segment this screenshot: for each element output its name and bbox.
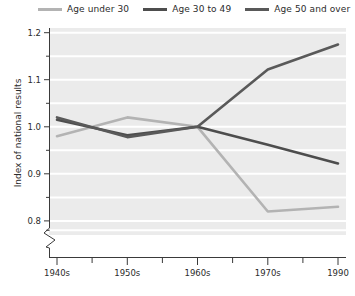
x-axis-tick-label: 1970s <box>248 268 288 278</box>
y-axis-tick-label: 1.2 <box>19 28 41 38</box>
x-axis-tick-label: 1960s <box>178 268 218 278</box>
x-axis-ticks <box>57 258 338 265</box>
y-axis-ticks <box>44 33 50 231</box>
y-axis-tick-label: 0.8 <box>19 216 41 226</box>
y-axis-tick-label: 1.0 <box>19 122 41 132</box>
x-axis-tick-label: 1990 <box>318 268 355 278</box>
y-axis-tick-label: 0.9 <box>19 169 41 179</box>
x-axis-tick-label: 1950s <box>107 268 147 278</box>
plot-background <box>49 28 346 235</box>
y-axis-tick-label: 1.1 <box>19 75 41 85</box>
x-axis-tick-label: 1940s <box>37 268 77 278</box>
